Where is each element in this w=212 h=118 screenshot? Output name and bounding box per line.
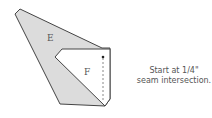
caption-line-1: Start at 1/4"	[136, 66, 212, 76]
caption: Start at 1/4" seam intersection.	[136, 66, 212, 86]
caption-line-2: seam intersection.	[136, 76, 212, 86]
label-f: F	[84, 67, 90, 77]
start-dot	[102, 56, 105, 59]
quilt-piece-diagram: E F	[0, 0, 212, 118]
label-e: E	[47, 33, 54, 43]
